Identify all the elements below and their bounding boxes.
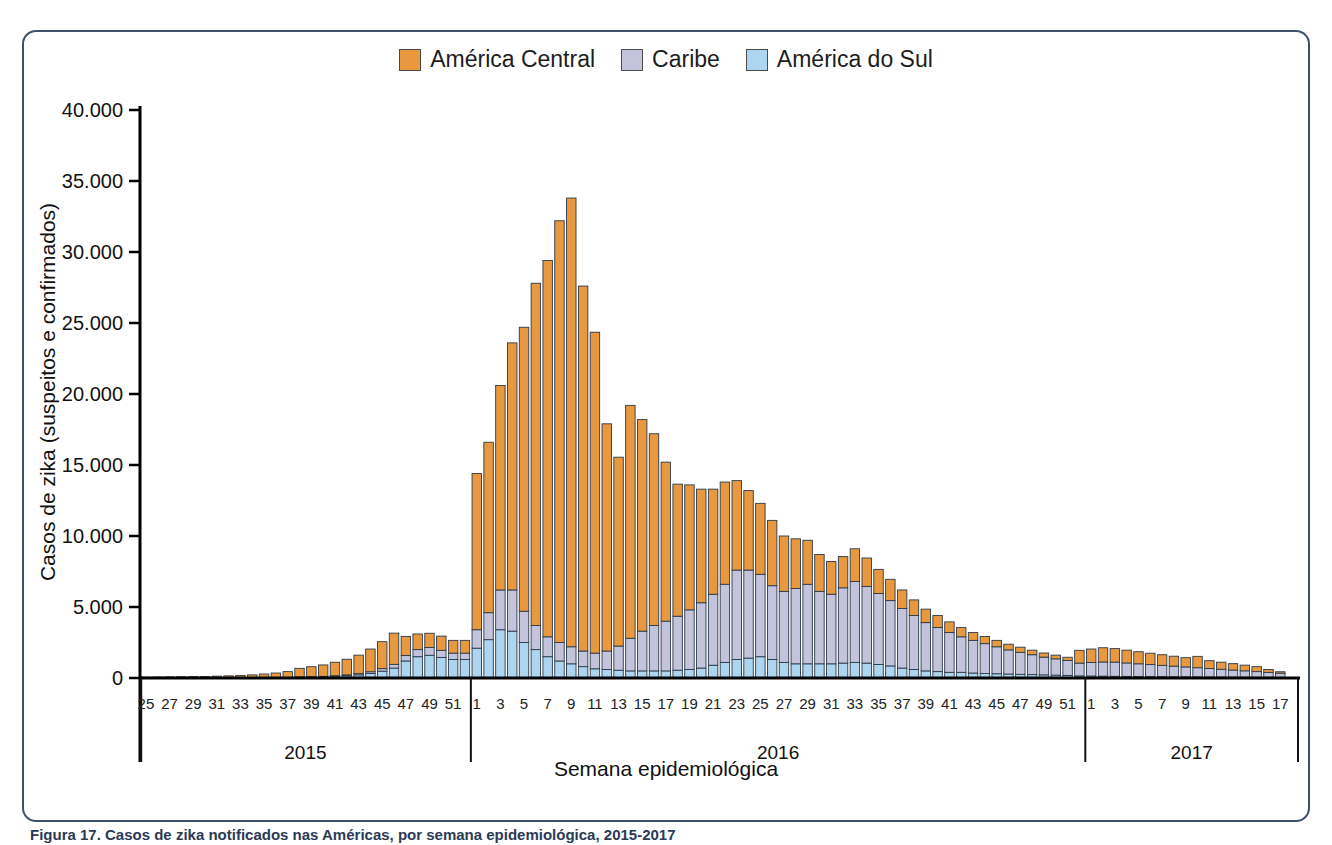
bar-segment: [507, 343, 516, 590]
bar-segment: [1193, 668, 1202, 677]
x-tick-label: 13: [1225, 695, 1242, 712]
bar-segment: [1228, 670, 1237, 677]
x-tick-label: 27: [161, 695, 178, 712]
bar-segment: [697, 603, 706, 668]
bar-segment: [933, 628, 942, 672]
bar-segment: [838, 588, 847, 663]
bar-segment: [767, 586, 776, 660]
bar-segment: [992, 640, 1001, 646]
bar-segment: [862, 586, 871, 663]
bar-segment: [602, 424, 611, 651]
bar-segment: [1063, 661, 1072, 676]
bar-segment: [1252, 667, 1261, 672]
bar-segment: [827, 594, 836, 664]
bar-segment: [850, 662, 859, 678]
bar-segment: [507, 590, 516, 631]
bar-segment: [389, 664, 398, 668]
bar-segment: [567, 198, 576, 647]
bar-segment: [886, 601, 895, 666]
x-tick-label: 5: [1134, 695, 1142, 712]
bar-segment: [472, 648, 481, 678]
x-tick-label: 7: [1158, 695, 1166, 712]
x-tick-label: 35: [256, 695, 273, 712]
bar-segment: [413, 657, 422, 678]
bar-segment: [862, 558, 871, 586]
x-tick-label: 25: [752, 695, 769, 712]
bar-segment: [1157, 665, 1166, 676]
bar-segment: [1240, 665, 1249, 671]
bar-segment: [1122, 650, 1131, 663]
bar-segment: [1134, 652, 1143, 664]
bar-segment: [354, 655, 363, 673]
bar-segment: [555, 661, 564, 678]
bar-segment: [460, 653, 469, 659]
bar-segment: [815, 591, 824, 663]
bar-segment: [448, 640, 457, 653]
x-tick-label: 9: [1182, 695, 1190, 712]
bar-segment: [567, 664, 576, 678]
bar-segment: [850, 581, 859, 662]
bar-segment: [1228, 664, 1237, 670]
bar-segment: [720, 584, 729, 662]
x-tick-label: 21: [705, 695, 722, 712]
bar-segment: [1252, 672, 1261, 678]
x-tick-label: 15: [1248, 695, 1265, 712]
x-tick-label: 51: [1059, 695, 1076, 712]
bar-segment: [933, 616, 942, 628]
x-tick-label: 45: [374, 695, 391, 712]
y-tick-label: 35.000: [18, 170, 123, 193]
bar-segment: [744, 570, 753, 658]
bar-segment: [342, 659, 351, 675]
x-tick-label: 3: [496, 695, 504, 712]
bar-segment: [1075, 663, 1084, 676]
x-tick-label: 11: [1202, 695, 1218, 712]
bar-segment: [519, 643, 528, 679]
bar-segment: [838, 557, 847, 588]
bar-segment: [496, 385, 505, 589]
bar-segment: [874, 594, 883, 665]
bar-segment: [708, 594, 717, 665]
bar-segment: [1051, 659, 1060, 675]
bar-segment: [413, 634, 422, 650]
bar-segment: [957, 628, 966, 637]
x-tick-label: 23: [728, 695, 745, 712]
x-tick-label: 1: [1087, 695, 1095, 712]
bar-segment: [649, 434, 658, 626]
x-tick-label: 27: [776, 695, 793, 712]
x-tick-label: 13: [610, 695, 627, 712]
bar-segment: [779, 536, 788, 591]
bar-segment: [945, 633, 954, 673]
bar-segment: [661, 621, 670, 671]
bar-segment: [1051, 655, 1060, 659]
bar-segment: [1240, 671, 1249, 677]
bar-segment: [1098, 648, 1107, 662]
x-tick-label: 31: [208, 695, 225, 712]
bar-segment: [767, 520, 776, 585]
bar-segment: [1063, 657, 1072, 660]
bar-segment: [968, 640, 977, 673]
bar-segment: [425, 633, 434, 647]
x-tick-label: 39: [917, 695, 934, 712]
bar-segment: [803, 584, 812, 664]
bar-segment: [1264, 670, 1273, 673]
bar-segment: [1098, 662, 1107, 676]
bar-segment: [472, 474, 481, 630]
x-tick-label: 19: [681, 695, 698, 712]
bar-segment: [484, 613, 493, 640]
bar-segment: [791, 664, 800, 678]
bar-segment: [555, 221, 564, 643]
y-tick-label: 40.000: [18, 99, 123, 122]
x-tick-label: 1: [473, 695, 481, 712]
x-tick-label: 41: [941, 695, 958, 712]
bar-segment: [862, 663, 871, 678]
bar-segment: [1169, 656, 1178, 666]
bar-segment: [1205, 661, 1214, 669]
bar-segment: [1110, 649, 1119, 662]
bar-segment: [389, 633, 398, 664]
chart-plot-area: Casos de zika (suspeitos e confirmados) …: [0, 0, 1332, 845]
bar-segment: [1205, 668, 1214, 677]
bar-segment: [614, 457, 623, 646]
bar-segment: [945, 622, 954, 633]
bar-segment: [827, 664, 836, 678]
bar-segment: [1110, 662, 1119, 676]
